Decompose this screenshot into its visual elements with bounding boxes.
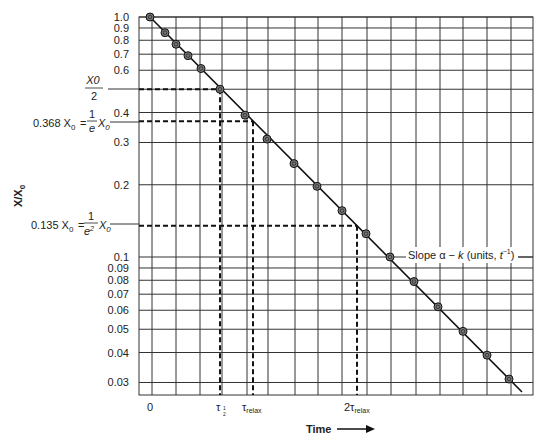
y-tick-label: 0.9 [114, 22, 129, 34]
svg-text:e: e [89, 122, 95, 134]
svg-text:0.135 X0: 0.135 X0 [31, 219, 74, 234]
y-tick-label: 0.04 [108, 347, 129, 359]
data-point [290, 160, 298, 168]
data-point [184, 52, 192, 60]
y-axis-ticks: 1.00.90.80.70.60.40.30.20.10.090.080.070… [108, 11, 129, 388]
chart-grid [139, 17, 533, 395]
data-point [161, 29, 169, 37]
svg-text:0.368 X0: 0.368 X0 [33, 117, 76, 132]
data-point [505, 375, 513, 383]
data-point [313, 182, 321, 190]
arrow-right-icon [337, 425, 375, 433]
x-axis-label: Time [306, 423, 331, 435]
data-point [410, 278, 418, 286]
x-tick-tau-half: τ 1 2 [216, 401, 226, 417]
y-tick-label: 0.05 [108, 323, 129, 335]
svg-text:X0: X0 [97, 117, 110, 132]
plot-border [139, 17, 533, 395]
y-tick-label: 0.2 [114, 179, 129, 191]
data-point [362, 230, 370, 238]
y-axis-label: X/X0 [12, 184, 27, 207]
data-point [434, 303, 442, 311]
data-point [146, 13, 154, 21]
svg-text:=: = [80, 117, 86, 129]
half-label: X0 2 [85, 74, 103, 102]
data-point [172, 40, 180, 48]
y-tick-label: 0.09 [108, 262, 129, 274]
y-tick-label: 0.07 [108, 288, 129, 300]
svg-text:X0: X0 [85, 74, 100, 86]
svg-text:X0: X0 [98, 219, 111, 234]
svg-text:1: 1 [89, 108, 95, 120]
data-point [483, 351, 491, 359]
reference-lines [139, 89, 357, 395]
svg-text:τ: τ [216, 401, 221, 413]
data-point [338, 207, 346, 215]
svg-text:1: 1 [88, 210, 94, 222]
y-tick-label: 0.08 [108, 274, 129, 286]
x-tick-two-tau-relax: 2τrelax [344, 401, 370, 414]
data-point [263, 135, 271, 143]
one-over-e-label: 0.368 X0 = 1 e X0 [33, 108, 110, 134]
svg-text:e2: e2 [84, 225, 94, 237]
data-point [459, 327, 467, 335]
y-tick-label: 0.4 [114, 107, 129, 119]
y-tick-label: 0.6 [114, 64, 129, 76]
y-tick-label: 0.03 [108, 376, 129, 388]
data-point [197, 65, 205, 73]
data-point [386, 253, 394, 261]
decay-chart: 1.00.90.80.70.60.40.30.20.10.090.080.070… [0, 0, 544, 444]
svg-text:2: 2 [223, 411, 226, 417]
x-tick-tau-relax: τrelax [242, 401, 262, 414]
data-point [216, 85, 224, 93]
x-tick-zero: 0 [147, 401, 153, 413]
one-over-e2-label: 0.135 X0 = 1 e2 X0 [31, 210, 111, 237]
data-point [241, 111, 249, 119]
y-tick-label: 0.7 [114, 48, 129, 60]
svg-text:2: 2 [91, 90, 97, 102]
decay-fit-line [150, 17, 522, 392]
y-tick-label: 0.3 [114, 136, 129, 148]
slope-label: Slope α − k (units, t−1) [408, 248, 514, 261]
y-tick-label: 0.8 [114, 34, 129, 46]
y-tick-label: 0.06 [108, 304, 129, 316]
